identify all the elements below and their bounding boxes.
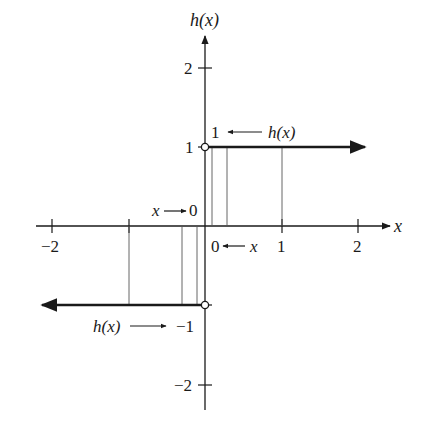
svg-text:−1: −1 bbox=[176, 317, 194, 336]
x-axis bbox=[36, 219, 390, 233]
sign-function-diagram: h(x) x −2 1 2 2 1 −2 1 h(x) x 0 0 x h(x)… bbox=[0, 0, 428, 433]
x-tick-label-2: 2 bbox=[353, 237, 362, 256]
open-circle-upper bbox=[201, 143, 208, 150]
x-axis-label: x bbox=[393, 216, 402, 236]
annotation-upper: 1 h(x) bbox=[211, 123, 296, 142]
svg-text:0: 0 bbox=[211, 237, 220, 256]
svg-text:1: 1 bbox=[211, 123, 220, 142]
svg-text:0: 0 bbox=[189, 201, 198, 220]
annotation-right-limit: 0 x bbox=[211, 237, 258, 256]
y-axis bbox=[198, 36, 212, 410]
x-tick-label-neg2: −2 bbox=[41, 237, 59, 256]
y-axis-label: h(x) bbox=[190, 10, 219, 31]
y-tick-label-2: 2 bbox=[184, 59, 193, 78]
y-tick-label-1: 1 bbox=[185, 138, 194, 157]
svg-text:x: x bbox=[151, 201, 160, 220]
y-tick-label-neg2: −2 bbox=[174, 376, 192, 395]
open-circle-lower bbox=[201, 301, 208, 308]
svg-text:x: x bbox=[249, 237, 258, 256]
svg-text:h(x): h(x) bbox=[268, 123, 296, 142]
x-tick-label-1: 1 bbox=[277, 237, 286, 256]
guide-lines-negative bbox=[129, 226, 197, 305]
guide-lines-positive bbox=[212, 147, 282, 226]
annotation-lower: h(x) −1 bbox=[93, 317, 194, 336]
svg-text:h(x): h(x) bbox=[93, 317, 121, 336]
annotation-left-limit: x 0 bbox=[151, 201, 198, 220]
